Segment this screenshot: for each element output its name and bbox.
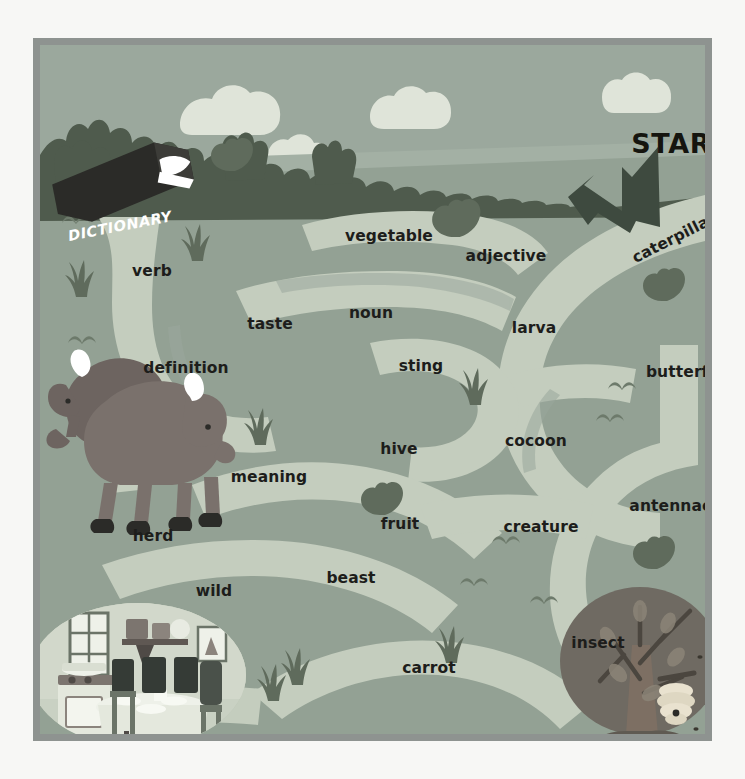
maze-word-antennae: antennae: [629, 497, 705, 515]
maze-word-adjective: adjective: [466, 247, 547, 265]
maze-frame: vegetableadjectivecaterpillarverbnounlar…: [33, 38, 712, 741]
maze-word-insect: insect: [571, 634, 624, 652]
maze-word-meaning: meaning: [231, 468, 307, 486]
maze-word-vegetable: vegetable: [345, 227, 433, 245]
maze-word-carrot: carrot: [402, 659, 456, 677]
maze-word-herd: herd: [133, 527, 174, 545]
maze-word-cocoon: cocoon: [505, 432, 567, 450]
maze-word-verb: verb: [132, 262, 172, 280]
start-marker-label: START: [631, 128, 705, 159]
maze-word-definition: definition: [143, 359, 228, 377]
maze-word-taste: taste: [247, 315, 293, 333]
worksheet-page: vegetableadjectivecaterpillarverbnounlar…: [0, 0, 745, 779]
maze-word-hive: hive: [380, 440, 417, 458]
maze-word-noun: noun: [349, 304, 393, 322]
maze-artwork: [40, 45, 705, 734]
maze-word-butterfly: butterfly: [646, 363, 705, 381]
maze-stage: vegetableadjectivecaterpillarverbnounlar…: [40, 45, 705, 734]
maze-word-beast: beast: [326, 569, 375, 587]
maze-word-sting: sting: [399, 357, 444, 375]
maze-word-creature: creature: [503, 518, 578, 536]
maze-word-larva: larva: [512, 319, 556, 337]
maze-word-wild: wild: [196, 582, 232, 600]
maze-word-fruit: fruit: [381, 515, 420, 533]
